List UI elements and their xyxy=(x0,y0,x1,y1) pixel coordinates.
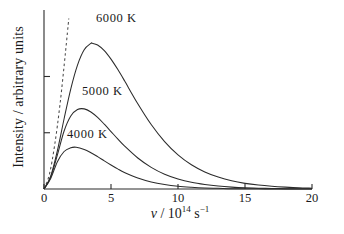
y-axis-ticks xyxy=(44,76,50,132)
x-tick-label-5: 5 xyxy=(98,191,124,206)
curve-label-4000k: 4000 K xyxy=(67,127,108,142)
x-tick-label-20: 20 xyxy=(299,191,325,206)
x-axis-unit-exponent: −1 xyxy=(200,204,210,214)
x-tick-label-15: 15 xyxy=(232,191,258,206)
x-tick-label-0: 0 xyxy=(31,191,57,206)
x-axis-exponent: 14 xyxy=(182,204,191,214)
curve-4000k xyxy=(44,147,312,189)
curve-label-6000k: 6000 K xyxy=(96,11,137,26)
x-axis-divider: / 10 xyxy=(157,206,182,221)
curve-5000k xyxy=(44,109,312,189)
x-axis-title: ν / 1014 s−1 xyxy=(110,206,250,222)
curve-6000k xyxy=(44,43,312,189)
blackbody-radiation-chart: Intensity / arbitrary units 0 5 10 15 20… xyxy=(0,0,344,234)
x-axis-unit: s xyxy=(191,206,200,221)
curve-label-5000k: 5000 K xyxy=(82,84,123,99)
